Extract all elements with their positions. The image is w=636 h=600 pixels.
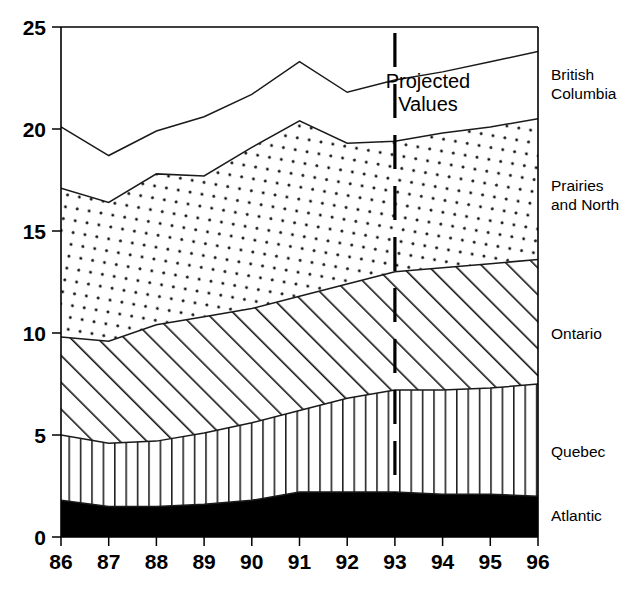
x-tick-label-94: 94 — [431, 550, 455, 573]
y-axis-tick-labels: 0510152025 — [23, 16, 47, 549]
x-axis-tick-labels: 8687888990919293949596 — [49, 550, 549, 573]
legend-item-british-columbia: British Columbia — [551, 66, 617, 102]
legend-label-british-columbia-line2: Columbia — [551, 85, 617, 102]
x-tick-label-95: 95 — [479, 550, 503, 573]
legend-label-prairies-and-north-line2: and North — [551, 196, 619, 213]
legend-label-atlantic: Atlantic — [551, 507, 602, 524]
legend-item-atlantic: Atlantic — [551, 507, 602, 524]
x-tick-label-92: 92 — [336, 550, 359, 573]
projected-values-annotation: Projected Values — [386, 70, 471, 115]
x-axis-ticks — [61, 537, 538, 546]
x-tick-label-88: 88 — [145, 550, 169, 573]
chart-canvas: 0510152025 8687888990919293949596 Projec… — [0, 0, 636, 600]
y-tick-label-10: 10 — [23, 322, 46, 345]
y-tick-label-5: 5 — [34, 424, 46, 447]
projected-values-line2: Values — [398, 93, 458, 115]
y-tick-label-20: 20 — [23, 118, 46, 141]
legend-item-prairies-and-north: Prairies and North — [551, 177, 619, 213]
legend-label-prairies-and-north-line1: Prairies — [551, 177, 604, 194]
x-tick-label-96: 96 — [526, 550, 549, 573]
y-tick-label-15: 15 — [23, 220, 47, 243]
x-tick-label-90: 90 — [240, 550, 263, 573]
x-tick-label-86: 86 — [49, 550, 72, 573]
projected-values-line1: Projected — [386, 70, 471, 92]
y-axis-ticks — [52, 27, 61, 537]
legend: British Columbia Prairies and North Onta… — [551, 66, 619, 524]
y-tick-label-25: 25 — [23, 16, 47, 39]
x-tick-label-91: 91 — [288, 550, 312, 573]
stacked-area-chart: 0510152025 8687888990919293949596 Projec… — [0, 0, 636, 600]
x-tick-label-93: 93 — [383, 550, 406, 573]
x-tick-label-87: 87 — [97, 550, 120, 573]
legend-label-british-columbia-line1: British — [551, 66, 594, 83]
x-tick-label-89: 89 — [192, 550, 215, 573]
legend-label-ontario: Ontario — [551, 325, 602, 342]
legend-label-quebec: Quebec — [551, 443, 606, 460]
legend-item-quebec: Quebec — [551, 443, 606, 460]
y-tick-label-0: 0 — [34, 526, 46, 549]
legend-item-ontario: Ontario — [551, 325, 602, 342]
